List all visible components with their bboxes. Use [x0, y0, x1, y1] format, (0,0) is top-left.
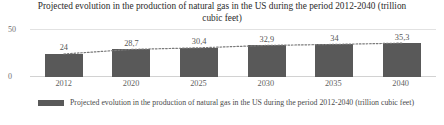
plot-area: 24 28,7 30,4 32,9 34 35,3 — [30, 29, 436, 77]
bar[interactable] — [180, 48, 218, 77]
legend-label: Projected evolution in the production of… — [70, 98, 414, 108]
legend-swatch-icon — [38, 100, 64, 106]
y-axis-tick-min: 0 — [8, 73, 12, 81]
bar[interactable] — [112, 49, 150, 77]
bar[interactable] — [45, 54, 83, 77]
bar-slot: 35,3 — [368, 29, 435, 77]
bar-slot: 32,9 — [233, 29, 300, 77]
bar-slot: 30,4 — [165, 29, 232, 77]
bar-value-label: 24 — [30, 43, 97, 52]
x-axis-tick: 2035 — [300, 79, 367, 89]
bar[interactable] — [248, 45, 286, 77]
chart-legend: Projected evolution in the production of… — [38, 98, 428, 108]
bar[interactable] — [383, 43, 421, 77]
bar-value-label: 28,7 — [98, 39, 165, 48]
y-axis-tick-max: 50 — [8, 26, 16, 34]
bar-group: 24 28,7 30,4 32,9 34 35,3 — [30, 29, 436, 77]
x-axis-tick: 2025 — [165, 79, 232, 89]
bar-value-label: 32,9 — [233, 35, 300, 44]
x-axis-tick: 2040 — [367, 79, 434, 89]
chart-figure: Projected evolution in the production of… — [0, 0, 444, 125]
bar-value-label: 34 — [301, 34, 368, 43]
x-axis-tick: 2030 — [232, 79, 299, 89]
bar-slot: 28,7 — [98, 29, 165, 77]
bar-value-label: 30,4 — [165, 37, 232, 46]
bar-slot: 34 — [301, 29, 368, 77]
x-axis: 2012 2020 2025 2030 2035 2040 — [30, 79, 436, 89]
bar[interactable] — [315, 44, 353, 77]
x-axis-tick: 2012 — [30, 79, 97, 89]
x-axis-tick: 2020 — [97, 79, 164, 89]
bar-slot: 24 — [30, 29, 97, 77]
chart-title: Projected evolution in the production of… — [32, 1, 412, 24]
bar-value-label: 35,3 — [368, 33, 435, 42]
